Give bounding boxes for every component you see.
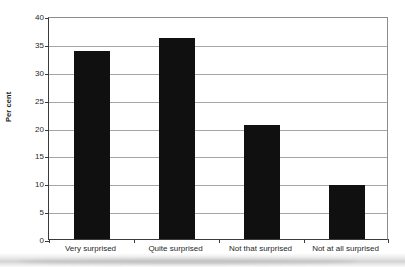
- bar: [244, 125, 280, 239]
- x-axis-tick-mark: [219, 239, 220, 243]
- x-axis-tick-mark: [134, 239, 135, 243]
- y-axis-tick-label: 30: [3, 70, 49, 78]
- y-axis-tick-label: 20: [3, 126, 49, 134]
- y-axis-tick-label: 15: [3, 153, 49, 161]
- y-axis-tick-label: 0: [3, 237, 49, 245]
- y-axis-tick-label: 40: [3, 14, 49, 22]
- y-axis-tick-label: 25: [3, 98, 49, 106]
- bar-chart-figure: Per cent 0510152025303540 Very surprised…: [0, 0, 405, 267]
- scan-shadow-artifact: [0, 253, 405, 267]
- bars-group: [49, 18, 387, 239]
- bar: [74, 51, 110, 239]
- y-axis-tick-label: 10: [3, 181, 49, 189]
- y-axis-tick-label: 35: [3, 42, 49, 50]
- bar: [329, 185, 365, 239]
- x-axis-tick-mark: [304, 239, 305, 243]
- x-axis-tick-mark: [388, 239, 389, 243]
- y-axis-tick-label: 5: [3, 209, 49, 217]
- bar: [159, 38, 195, 239]
- x-axis-tick-mark: [49, 239, 50, 243]
- plot-area: 0510152025303540: [48, 17, 388, 240]
